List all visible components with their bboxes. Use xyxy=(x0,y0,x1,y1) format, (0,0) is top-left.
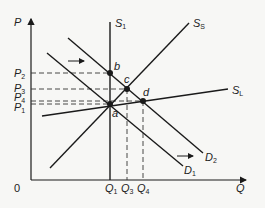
q1-label: Q1 xyxy=(105,182,118,195)
point-b xyxy=(107,70,113,76)
axes xyxy=(31,19,246,180)
supply-demand-diagram: P Q 0 S1 SS SL D1 D2 a b c d P2 P3 P4 P1… xyxy=(0,0,265,208)
sl-curve xyxy=(42,89,228,116)
d1-label: D1 xyxy=(184,164,196,177)
p2-label: P2 xyxy=(14,67,25,80)
point-b-label: b xyxy=(114,60,120,72)
ss-curve xyxy=(50,23,189,168)
point-d-label: d xyxy=(143,86,150,98)
ss-label: SS xyxy=(193,17,205,30)
point-c-label: c xyxy=(124,73,130,85)
q4-label: Q4 xyxy=(137,182,150,195)
y-axis-label: P xyxy=(14,16,22,28)
point-d xyxy=(140,98,146,104)
sl-label: SL xyxy=(232,84,243,97)
point-a-label: a xyxy=(112,107,118,119)
s1-label: S1 xyxy=(115,17,126,30)
origin-label: 0 xyxy=(14,182,20,194)
d2-label: D2 xyxy=(205,151,217,164)
x-axis-label: Q xyxy=(236,182,245,194)
q3-label: Q3 xyxy=(121,182,134,195)
shift-arrows xyxy=(68,61,193,156)
point-c xyxy=(124,86,130,92)
